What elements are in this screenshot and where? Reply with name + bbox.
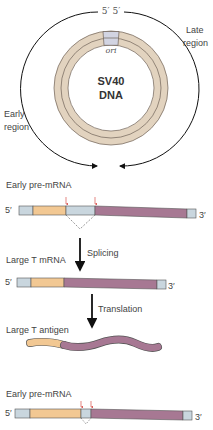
early-region-label-1: Early	[4, 109, 25, 119]
large-t-mrna-bar	[17, 278, 166, 289]
panel2-three-prime: 3′	[168, 281, 175, 291]
panel2-title: Large T mRNA	[6, 255, 66, 265]
intron-splice-loop-2	[81, 418, 91, 424]
large-t-antigen-protein	[30, 340, 158, 348]
five-prime-labels: 5′ 5′	[102, 6, 120, 16]
ori-segment	[103, 32, 119, 46]
splicing-label: Splicing	[87, 248, 119, 258]
panel2-five-prime: 5′	[5, 277, 12, 287]
intron-splice-loop	[66, 215, 95, 229]
sv40-diagram: 5′ 5′ ori SV40 DNA Late region Early reg…	[0, 0, 213, 430]
panel4-title: Early pre-mRNA	[6, 389, 72, 399]
panel1-five-prime: 5′	[5, 205, 12, 215]
panel1-three-prime: 3′	[199, 210, 206, 220]
late-region-label-1: Late	[186, 25, 204, 35]
pre-mrna-bar-1	[19, 206, 196, 218]
panel3-title: Large T antigen	[6, 325, 69, 335]
panel4-five-prime: 5′	[5, 408, 12, 418]
early-region-label-2: region	[4, 122, 29, 132]
late-region-label-2: region	[183, 38, 208, 48]
panel4-three-prime: 3′	[195, 412, 202, 422]
ori-label: ori	[105, 46, 117, 55]
center-label-dna: DNA	[99, 89, 123, 101]
panel1-title: Early pre-mRNA	[6, 180, 72, 190]
center-label-sv40: SV40	[98, 75, 125, 87]
translation-label: Translation	[98, 304, 142, 314]
pre-mrna-bar-2	[15, 409, 192, 420]
